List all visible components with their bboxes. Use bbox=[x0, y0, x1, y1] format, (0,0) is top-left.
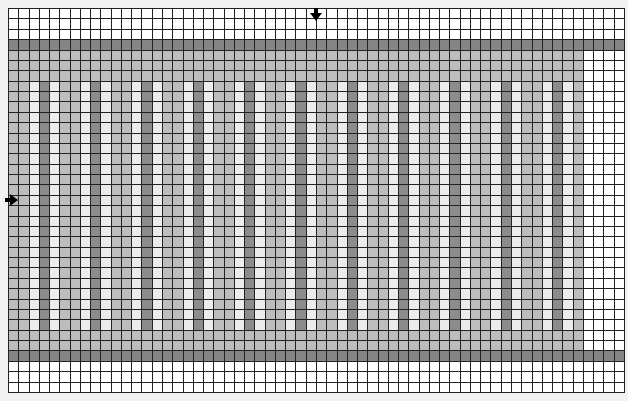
grid-cell[interactable] bbox=[153, 102, 163, 112]
grid-cell[interactable] bbox=[307, 61, 317, 71]
grid-cell[interactable] bbox=[307, 300, 317, 310]
grid-cell[interactable] bbox=[235, 113, 245, 123]
grid-cell[interactable] bbox=[461, 206, 471, 216]
grid-cell[interactable] bbox=[522, 300, 532, 310]
grid-cell[interactable] bbox=[163, 61, 173, 71]
grid-cell[interactable] bbox=[81, 40, 91, 50]
grid-cell[interactable] bbox=[553, 227, 563, 237]
grid-cell[interactable] bbox=[71, 144, 81, 154]
grid-cell[interactable] bbox=[574, 9, 584, 19]
grid-cell[interactable] bbox=[409, 206, 419, 216]
grid-cell[interactable] bbox=[594, 300, 604, 310]
grid-cell[interactable] bbox=[399, 310, 409, 320]
grid-cell[interactable] bbox=[317, 237, 327, 247]
grid-cell[interactable] bbox=[358, 320, 368, 330]
grid-cell[interactable] bbox=[502, 134, 512, 144]
grid-cell[interactable] bbox=[491, 320, 501, 330]
grid-cell[interactable] bbox=[420, 227, 430, 237]
grid-cell[interactable] bbox=[317, 196, 327, 206]
grid-cell[interactable] bbox=[604, 144, 614, 154]
grid-cell[interactable] bbox=[101, 102, 111, 112]
grid-cell[interactable] bbox=[420, 19, 430, 29]
grid-cell[interactable] bbox=[348, 175, 358, 185]
grid-cell[interactable] bbox=[317, 289, 327, 299]
grid-cell[interactable] bbox=[594, 134, 604, 144]
grid-cell[interactable] bbox=[327, 92, 337, 102]
grid-cell[interactable] bbox=[471, 19, 481, 29]
grid-cell[interactable] bbox=[327, 71, 337, 81]
grid-cell[interactable] bbox=[317, 175, 327, 185]
grid-cell[interactable] bbox=[502, 123, 512, 133]
grid-cell[interactable] bbox=[481, 185, 491, 195]
grid-cell[interactable] bbox=[112, 383, 122, 393]
grid-cell[interactable] bbox=[235, 40, 245, 50]
grid-cell[interactable] bbox=[553, 362, 563, 372]
grid-cell[interactable] bbox=[522, 268, 532, 278]
grid-cell[interactable] bbox=[50, 40, 60, 50]
grid-cell[interactable] bbox=[420, 165, 430, 175]
grid-cell[interactable] bbox=[615, 82, 625, 92]
grid-cell[interactable] bbox=[604, 383, 614, 393]
grid-cell[interactable] bbox=[276, 279, 286, 289]
grid-cell[interactable] bbox=[71, 351, 81, 361]
grid-cell[interactable] bbox=[491, 92, 501, 102]
grid-cell[interactable] bbox=[9, 40, 19, 50]
grid-cell[interactable] bbox=[368, 196, 378, 206]
grid-cell[interactable] bbox=[184, 310, 194, 320]
grid-cell[interactable] bbox=[122, 331, 132, 341]
grid-cell[interactable] bbox=[276, 372, 286, 382]
grid-cell[interactable] bbox=[276, 383, 286, 393]
grid-cell[interactable] bbox=[91, 341, 101, 351]
grid-cell[interactable] bbox=[615, 30, 625, 40]
grid-cell[interactable] bbox=[112, 30, 122, 40]
grid-cell[interactable] bbox=[317, 82, 327, 92]
grid-cell[interactable] bbox=[163, 362, 173, 372]
grid-cell[interactable] bbox=[245, 51, 255, 61]
grid-cell[interactable] bbox=[245, 196, 255, 206]
grid-cell[interactable] bbox=[379, 144, 389, 154]
grid-cell[interactable] bbox=[296, 165, 306, 175]
grid-cell[interactable] bbox=[71, 237, 81, 247]
grid-cell[interactable] bbox=[266, 154, 276, 164]
grid-cell[interactable] bbox=[276, 217, 286, 227]
grid-cell[interactable] bbox=[71, 61, 81, 71]
grid-cell[interactable] bbox=[502, 310, 512, 320]
grid-cell[interactable] bbox=[512, 102, 522, 112]
grid-cell[interactable] bbox=[338, 113, 348, 123]
grid-cell[interactable] bbox=[296, 113, 306, 123]
grid-cell[interactable] bbox=[225, 341, 235, 351]
grid-cell[interactable] bbox=[379, 113, 389, 123]
grid-cell[interactable] bbox=[348, 320, 358, 330]
grid-cell[interactable] bbox=[399, 51, 409, 61]
grid-cell[interactable] bbox=[9, 134, 19, 144]
grid-cell[interactable] bbox=[409, 165, 419, 175]
grid-cell[interactable] bbox=[286, 227, 296, 237]
grid-cell[interactable] bbox=[266, 289, 276, 299]
grid-cell[interactable] bbox=[533, 310, 543, 320]
grid-cell[interactable] bbox=[101, 51, 111, 61]
grid-cell[interactable] bbox=[194, 227, 204, 237]
grid-cell[interactable] bbox=[40, 279, 50, 289]
grid-cell[interactable] bbox=[255, 383, 265, 393]
grid-cell[interactable] bbox=[574, 248, 584, 258]
grid-cell[interactable] bbox=[194, 154, 204, 164]
grid-cell[interactable] bbox=[296, 268, 306, 278]
grid-cell[interactable] bbox=[389, 300, 399, 310]
grid-cell[interactable] bbox=[225, 144, 235, 154]
grid-cell[interactable] bbox=[553, 123, 563, 133]
grid-cell[interactable] bbox=[327, 341, 337, 351]
grid-cell[interactable] bbox=[132, 362, 142, 372]
grid-cell[interactable] bbox=[132, 82, 142, 92]
grid-cell[interactable] bbox=[153, 248, 163, 258]
grid-cell[interactable] bbox=[471, 248, 481, 258]
grid-cell[interactable] bbox=[399, 113, 409, 123]
grid-cell[interactable] bbox=[184, 268, 194, 278]
grid-cell[interactable] bbox=[420, 123, 430, 133]
grid-cell[interactable] bbox=[533, 40, 543, 50]
grid-cell[interactable] bbox=[317, 268, 327, 278]
grid-cell[interactable] bbox=[81, 175, 91, 185]
grid-cell[interactable] bbox=[60, 237, 70, 247]
grid-cell[interactable] bbox=[338, 165, 348, 175]
grid-cell[interactable] bbox=[194, 71, 204, 81]
grid-cell[interactable] bbox=[60, 248, 70, 258]
